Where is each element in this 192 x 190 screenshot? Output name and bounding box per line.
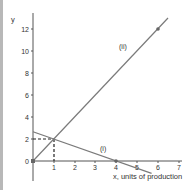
chart: 0 2 4 6 8 10 12 1 2 3 4 5 6 7 y x, units…: [0, 0, 192, 190]
y-tick-6: 6: [25, 92, 29, 99]
x-tick-6: 6: [156, 164, 160, 171]
y-tick-2: 2: [25, 136, 29, 143]
series-i-marker: [114, 159, 118, 163]
series-ii-marker: [156, 27, 160, 31]
y-tick-4: 4: [25, 114, 29, 121]
series-i-label: (i): [100, 145, 106, 153]
y-tick-0: 0: [25, 158, 29, 165]
y-tick-10: 10: [21, 48, 29, 55]
series-ii-line: [33, 18, 168, 161]
y-tick-12: 12: [21, 26, 29, 33]
x-axis-label: x, units of production: [113, 172, 182, 181]
series-ii-label: (ii): [119, 43, 127, 51]
x-tick-7: 7: [177, 164, 181, 171]
y-axis-label: y: [11, 15, 15, 24]
y-tick-8: 8: [25, 70, 29, 77]
x-tick-1: 1: [52, 164, 56, 171]
x-tick-4: 4: [114, 164, 118, 171]
origin-marker: [31, 159, 35, 163]
x-tick-2: 2: [73, 164, 77, 171]
x-tick-3: 3: [93, 164, 97, 171]
